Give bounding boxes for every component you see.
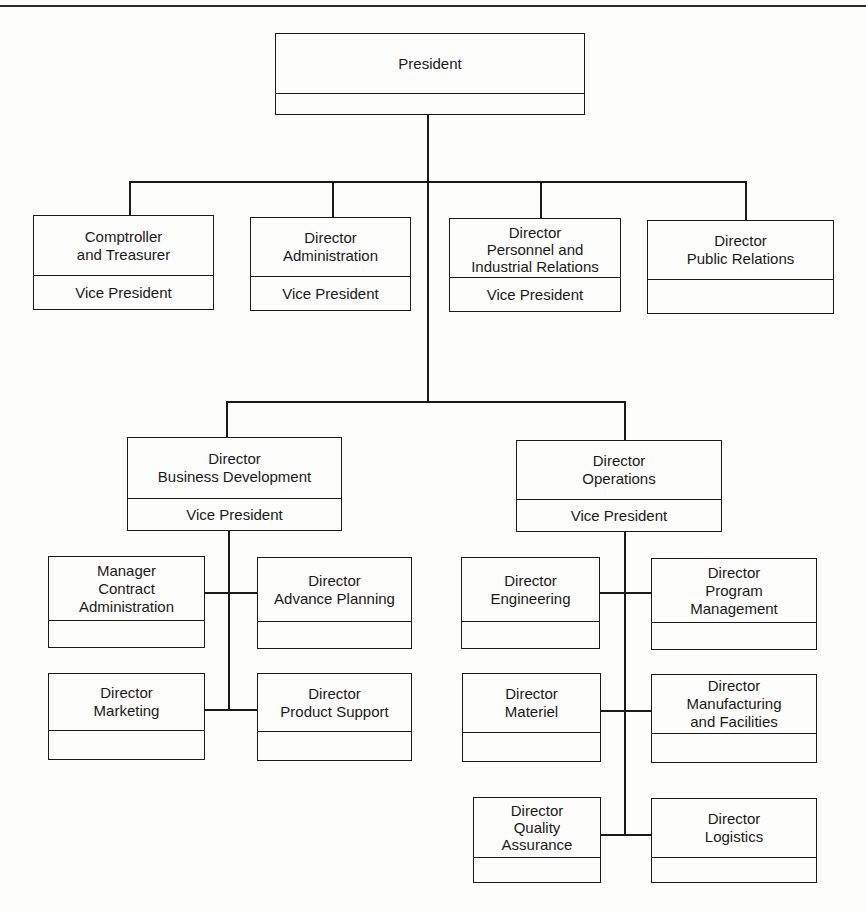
title-line: Administration <box>283 247 378 265</box>
box-subtitle: Vice President <box>34 275 213 309</box>
box-director-marketing: Director Marketing <box>48 673 205 760</box>
box-director-business-development: Director Business Development Vice Presi… <box>127 437 342 531</box>
top-rule <box>0 5 866 7</box>
box-subtitle <box>462 621 599 648</box>
title-line: Program <box>705 582 763 600</box>
box-director-operations: Director Operations Vice President <box>516 440 722 532</box>
title-line: Director <box>593 452 646 470</box>
title-line: Logistics <box>705 828 763 846</box>
box-subtitle <box>49 730 204 759</box>
connector-division-bar <box>226 401 626 403</box>
box-manager-contract-administration: Manager Contract Administration <box>48 556 205 648</box>
box-director-manufacturing-facilities: Director Manufacturing and Facilities <box>651 674 817 763</box>
title-line: Materiel <box>505 703 558 721</box>
title-line: Director <box>308 572 361 590</box>
box-director-logistics: Director Logistics <box>651 798 817 883</box>
box-director-administration: Director Administration Vice President <box>250 217 411 311</box>
box-subtitle: Vice President <box>517 499 721 531</box>
connector-ops-row-3 <box>600 834 651 836</box>
title-line: Director <box>708 677 761 695</box>
box-director-advance-planning: Director Advance Planning <box>257 557 412 649</box>
title-line: Director <box>308 685 361 703</box>
title-line: Manager <box>97 562 156 580</box>
title-line: Director <box>708 564 761 582</box>
box-title: Director Operations <box>517 441 721 499</box>
connector-president-trunk <box>427 114 429 402</box>
box-title: Comptroller and Treasurer <box>34 216 213 275</box>
title-line: Director <box>208 450 261 468</box>
box-subtitle <box>474 857 600 882</box>
title-line: Marketing <box>94 702 160 720</box>
connector-division-2 <box>624 401 626 440</box>
box-title: Director Personnel and Industrial Relati… <box>450 219 620 277</box>
box-subtitle <box>652 857 816 882</box>
title-line: and Facilities <box>690 713 778 731</box>
box-title: Director Manufacturing and Facilities <box>652 675 816 733</box>
connector-bd-row-2 <box>204 709 258 711</box>
box-title: Director Product Support <box>258 674 411 731</box>
box-title: Director Quality Assurance <box>474 798 600 857</box>
connector-bd-row-1 <box>204 592 258 594</box>
box-director-quality-assurance: Director Quality Assurance <box>473 797 601 883</box>
box-subtitle <box>49 620 204 647</box>
title-line: Industrial Relations <box>471 258 599 275</box>
connector-staff-4 <box>745 181 747 220</box>
connector-ops-stem <box>624 531 626 836</box>
box-subtitle: Vice President <box>128 498 341 530</box>
connector-bd-stem <box>228 530 230 711</box>
box-director-materiel: Director Materiel <box>462 673 601 762</box>
box-subtitle <box>652 622 816 649</box>
connector-ops-row-2 <box>600 710 651 712</box>
connector-staff-2 <box>332 181 334 217</box>
title-line: Contract <box>98 580 155 598</box>
title-line: and Treasurer <box>77 246 170 264</box>
title-line: Advance Planning <box>274 590 395 608</box>
title-line: Director <box>304 229 357 247</box>
title-line: Director <box>511 802 564 819</box>
title-line: Personnel and <box>487 241 584 258</box>
title-line: President <box>398 55 461 73</box>
box-director-public-relations: Director Public Relations <box>647 220 834 314</box>
connector-ops-row-1 <box>599 592 651 594</box>
title-line: Director <box>504 572 557 590</box>
box-director-personnel-industrial-relations: Director Personnel and Industrial Relati… <box>449 218 621 312</box>
title-line: Management <box>690 600 778 618</box>
box-director-engineering: Director Engineering <box>461 557 600 649</box>
box-director-product-support: Director Product Support <box>257 673 412 761</box>
box-subtitle <box>652 733 816 762</box>
title-line: Engineering <box>490 590 570 608</box>
box-title: Director Materiel <box>463 674 600 732</box>
box-title: President <box>276 34 584 93</box>
connector-staff-bar <box>129 181 747 183</box>
title-line: Director <box>509 224 562 241</box>
connector-division-1 <box>226 401 228 437</box>
box-title: Director Program Management <box>652 559 816 622</box>
box-title: Director Advance Planning <box>258 558 411 621</box>
title-line: Comptroller <box>85 228 163 246</box>
box-subtitle <box>648 279 833 313</box>
title-line: Director <box>708 810 761 828</box>
title-line: Director <box>505 685 558 703</box>
box-subtitle <box>258 621 411 648</box>
box-comptroller-treasurer: Comptroller and Treasurer Vice President <box>33 215 214 310</box>
title-line: Public Relations <box>687 250 795 268</box>
title-line: Manufacturing <box>686 695 781 713</box>
connector-staff-3 <box>540 181 542 218</box>
box-president: President <box>275 33 585 115</box>
box-director-program-management: Director Program Management <box>651 558 817 650</box>
box-title: Director Public Relations <box>648 221 833 279</box>
title-line: Product Support <box>280 703 388 721</box>
box-title: Director Administration <box>251 218 410 276</box>
box-subtitle: Vice President <box>450 277 620 311</box>
box-subtitle <box>463 732 600 761</box>
box-title: Manager Contract Administration <box>49 557 204 620</box>
title-line: Assurance <box>502 836 573 853</box>
box-title: Director Marketing <box>49 674 204 730</box>
connector-staff-1 <box>129 181 131 216</box>
box-title: Director Business Development <box>128 438 341 498</box>
title-line: Director <box>714 232 767 250</box>
org-chart: President Comptroller and Treasurer Vice… <box>0 0 866 913</box>
box-subtitle <box>276 93 584 114</box>
title-line: Administration <box>79 598 174 616</box>
title-line: Business Development <box>158 468 311 486</box>
